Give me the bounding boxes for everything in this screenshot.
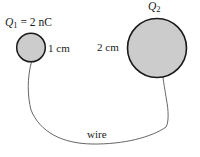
- label-charge-q1: Q1 = 2 nC: [5, 17, 52, 30]
- label-q1-subscript: 1: [13, 20, 17, 30]
- sphere-q1: [17, 33, 46, 62]
- sphere-q2: [128, 19, 187, 78]
- label-q2-subscript: 2: [156, 4, 160, 14]
- physics-figure-two-spheres-wire: Q1 = 2 nC Q2 1 cm 2 cm wire: [0, 0, 200, 157]
- label-radius-right: 2 cm: [97, 42, 119, 53]
- label-radius-left: 1 cm: [48, 43, 70, 54]
- label-wire: wire: [87, 129, 107, 140]
- label-charge-q2: Q2: [148, 1, 161, 14]
- label-q1-value: = 2 nC: [20, 16, 51, 28]
